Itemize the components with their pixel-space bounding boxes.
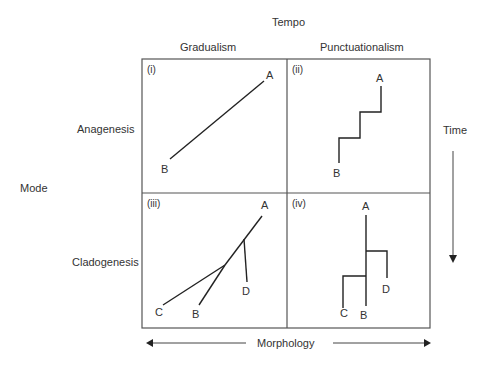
tempo-label: Tempo: [272, 16, 305, 28]
panel-iii-label-b: B: [192, 308, 199, 320]
gradualism-label: Gradualism: [180, 41, 236, 53]
panel-iv-label-b: B: [360, 309, 367, 321]
panel-iv-branch-d: [366, 251, 387, 278]
panel-iii-branch-d: [244, 239, 247, 282]
cladogenesis-label: Cladogenesis: [72, 256, 139, 268]
panel-ii-id: (ii): [292, 64, 303, 75]
panel-iii-label-d: D: [242, 285, 250, 297]
panel-iv-id: (iv): [292, 198, 306, 209]
panel-iv-label-c: C: [340, 307, 348, 319]
panel-iii-branch-c: [163, 265, 225, 305]
anagenesis-label: Anagenesis: [77, 123, 135, 135]
time-arrow-head: [449, 255, 457, 263]
panel-i-label-b: B: [161, 163, 168, 175]
panel-ii-label-b: B: [333, 167, 340, 179]
panel-iii-branch-b: [199, 265, 225, 305]
time-label: Time: [443, 124, 467, 136]
panel-ii-lineage: [339, 86, 381, 163]
mode-label: Mode: [20, 182, 48, 194]
panel-iv-branch-c: [343, 276, 366, 308]
punctuationalism-label: Punctuationalism: [320, 41, 404, 53]
panel-i-lineage: [170, 81, 264, 159]
diagram-canvas: [0, 0, 484, 365]
panel-iii-id: (iii): [147, 198, 160, 209]
panel-iv-label-a: A: [362, 200, 369, 212]
morphology-arrow-left: [146, 339, 153, 347]
morphology-label: Morphology: [257, 337, 314, 349]
panel-i-id: (i): [147, 64, 156, 75]
panel-ii-label-a: A: [376, 72, 383, 84]
panel-iv-label-d: D: [382, 283, 390, 295]
morphology-arrow-right: [424, 339, 431, 347]
panel-iii-label-c: C: [155, 306, 163, 318]
panel-iii-label-a: A: [261, 199, 268, 211]
panel-i-label-a: A: [266, 69, 273, 81]
